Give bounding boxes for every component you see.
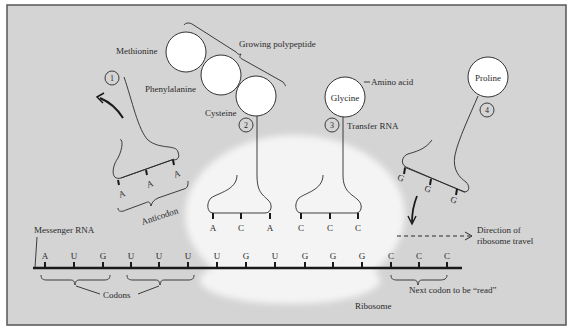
mrna-base-12: G (359, 251, 366, 261)
mrna-base-1: A (42, 251, 49, 261)
mrna-base-6: U (185, 251, 192, 261)
mrna-base-2: U (71, 251, 78, 261)
trna-3-base-1: C (298, 223, 304, 233)
mrna-base-5: U (156, 251, 163, 261)
trna-2-number: 2 (244, 121, 248, 130)
transfer-rna-label: Transfer RNA (347, 121, 399, 131)
trna-2-base-2: C (238, 223, 244, 233)
mrna-base-4: U (128, 251, 135, 261)
mrna-base-15: C (444, 251, 450, 261)
trna-3-base-2: C (327, 223, 333, 233)
mrna-base-11: G (330, 251, 337, 261)
protein-synthesis-diagram: Growing polypeptide Methionine Phenylala… (0, 0, 573, 331)
next-codon-label: Next codon to be “read” (409, 285, 496, 295)
mrna-base-7: U (214, 251, 221, 261)
proline-label: Proline (475, 73, 501, 83)
phenylalanine-circle (201, 55, 241, 95)
glycine-label: Glycine (331, 93, 360, 103)
trna-2-base-1: A (210, 223, 217, 233)
trna-3-base-3: C (355, 223, 361, 233)
mrna-base-10: G (302, 251, 309, 261)
mrna-base-9: U (272, 251, 279, 261)
messenger-rna-label: Messenger RNA (34, 225, 95, 235)
trna-1-number: 1 (110, 74, 114, 83)
ribosome (185, 135, 405, 304)
amino-acid-label: Amino acid (371, 77, 414, 87)
mrna-base-3: G (100, 251, 107, 261)
trna-3-number: 3 (330, 121, 334, 130)
cysteine-label: Cysteine (205, 108, 237, 118)
trna-4-number: 4 (485, 106, 489, 115)
direction-label-line2: ribosome travel (477, 236, 534, 246)
mrna-base-14: C (416, 251, 422, 261)
methionine-circle (166, 32, 206, 72)
direction-label-line1: Direction of (477, 225, 521, 235)
trna-2-base-3: A (267, 223, 274, 233)
growing-polypeptide-label: Growing polypeptide (239, 39, 316, 49)
codons-label: Codons (103, 290, 131, 300)
phenylalanine-label: Phenylalanine (145, 84, 196, 94)
cysteine-circle (236, 76, 276, 116)
ribosome-label: Ribosome (355, 301, 392, 311)
mrna-base-8: G (243, 251, 250, 261)
mrna-base-13: C (388, 251, 394, 261)
methionine-label: Methionine (116, 46, 158, 56)
